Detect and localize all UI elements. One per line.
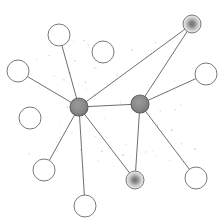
speckle-dot: [84, 40, 86, 41]
graph-node-leaf-upleft: [7, 60, 29, 82]
speckle-dot: [120, 102, 121, 103]
speckle-dot: [39, 86, 40, 88]
graph-node-leaf-bottom: [74, 195, 96, 217]
node-layer: [7, 15, 217, 217]
speckle-dot: [175, 109, 176, 111]
speckle-dot: [54, 75, 56, 77]
speckle-dot: [169, 160, 171, 162]
speckle-dot: [117, 73, 119, 74]
speckle-dot: [85, 81, 86, 82]
speckle-dot: [60, 122, 61, 123]
speckle-dot: [94, 67, 95, 68]
graph-node-grad-topright: [183, 15, 201, 33]
graph-edge: [49, 114, 75, 160]
speckle-dot: [85, 89, 87, 90]
graph-edge: [145, 111, 190, 170]
speckle-dot: [85, 82, 86, 83]
graph-node-hub-left: [70, 98, 88, 116]
speckle-texture-layer: [29, 40, 196, 169]
graph-node-hub-right: [131, 95, 149, 113]
graph-node-leaf-lowleft: [33, 159, 55, 181]
speckle-dot: [88, 44, 89, 46]
speckle-dot: [108, 142, 109, 143]
graph-node-leaf-midleft: [19, 107, 41, 129]
network-graph-figure: [0, 0, 223, 223]
speckle-dot: [56, 142, 58, 143]
speckle-dot: [104, 118, 105, 119]
speckle-dot: [131, 49, 133, 51]
speckle-dot: [59, 137, 60, 138]
speckle-dot: [147, 85, 148, 86]
graph-node-leaf-top: [48, 24, 70, 46]
speckle-dot: [71, 133, 72, 134]
speckle-dot: [152, 150, 153, 152]
speckle-dot: [125, 144, 127, 145]
speckle-dot: [116, 75, 117, 77]
speckle-dot: [123, 154, 125, 156]
speckle-dot: [67, 107, 68, 109]
graph-edge: [136, 112, 140, 171]
graph-edge: [87, 104, 131, 106]
graph-node-leaf-right: [195, 63, 217, 85]
speckle-dot: [171, 130, 173, 132]
graph-edge: [62, 45, 77, 99]
speckle-dot: [156, 155, 157, 156]
speckle-dot: [98, 160, 99, 162]
speckle-dot: [63, 79, 65, 80]
speckle-dot: [101, 151, 102, 152]
graph-edge: [84, 114, 130, 174]
speckle-dot: [36, 59, 37, 60]
speckle-dot: [160, 111, 162, 112]
speckle-dot: [39, 156, 40, 157]
speckle-dot: [194, 148, 196, 150]
speckle-dot: [74, 60, 76, 61]
graph-edge: [80, 115, 85, 195]
graph-node-leaf-botright: [185, 167, 207, 189]
graph-edge: [86, 29, 185, 102]
speckle-dot: [95, 68, 97, 69]
speckle-dot: [174, 80, 175, 81]
speckle-dot: [29, 153, 30, 155]
speckle-dot: [155, 42, 157, 43]
network-graph-canvas: [0, 0, 223, 223]
speckle-dot: [48, 55, 50, 56]
speckle-dot: [145, 151, 147, 153]
speckle-dot: [180, 105, 182, 106]
graph-edge: [27, 76, 72, 102]
speckle-dot: [181, 143, 182, 144]
speckle-dot: [73, 41, 74, 43]
speckle-dot: [113, 166, 114, 167]
graph-node-leaf-upmid: [92, 41, 114, 63]
graph-edge: [145, 31, 188, 97]
graph-node-grad-bottom: [126, 171, 144, 189]
speckle-dot: [95, 136, 96, 137]
